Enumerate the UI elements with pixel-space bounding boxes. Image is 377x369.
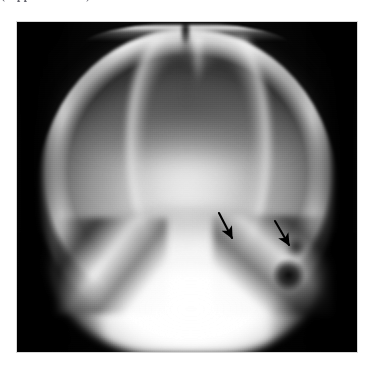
collimation-corner-bottom-left (17, 242, 103, 352)
collimation-corner-bottom-right (271, 242, 357, 352)
sagittal-suture-line (183, 36, 189, 106)
clipped-caption-strip: (clipped text line) (0, 0, 377, 9)
skull-radiograph-image (17, 22, 357, 352)
figure-panel (17, 22, 357, 352)
clipped-caption-text: (clipped text line) (1, 0, 161, 1)
